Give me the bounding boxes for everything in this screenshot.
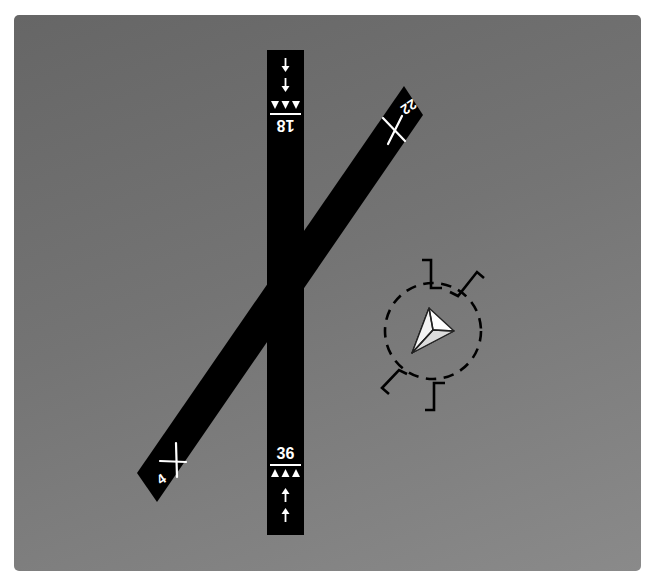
traffic-pattern-indicator-southwest (382, 370, 407, 394)
airport-diagram: 22 4 18 36 (0, 0, 655, 584)
runway-18-36: 18 36 (267, 50, 304, 535)
threshold-bar-36 (270, 464, 301, 466)
segmented-circle (382, 260, 484, 410)
traffic-pattern-indicator-northeast (450, 272, 484, 296)
runway-label-36: 36 (277, 445, 295, 462)
threshold-chevrons-36 (271, 469, 300, 477)
traffic-pattern-indicator-south (425, 383, 445, 410)
threshold-chevrons-18 (271, 101, 300, 109)
runway-label-18: 18 (277, 117, 295, 134)
threshold-bar-18 (270, 113, 301, 115)
tetrahedron-icon (412, 308, 454, 353)
